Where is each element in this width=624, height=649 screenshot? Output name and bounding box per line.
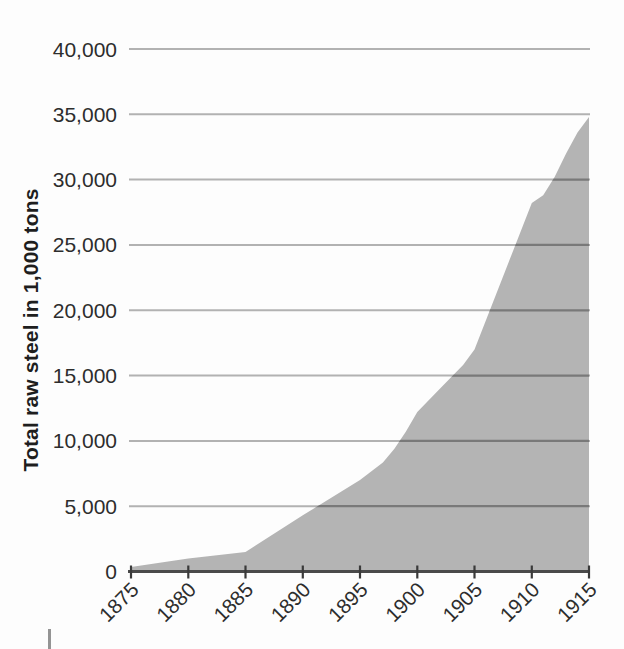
y-tick-label: 5,000 [64, 495, 117, 518]
y-tick-label: 40,000 [53, 38, 117, 61]
x-tick-label: 1910 [495, 578, 544, 627]
x-tick-label: 1880 [152, 578, 201, 627]
area-series [131, 117, 589, 572]
x-tick-label: 1885 [209, 578, 258, 627]
y-tick-label: 10,000 [53, 429, 117, 452]
y-tick-label: 15,000 [53, 364, 117, 387]
area-chart-plot: 05,00010,00015,00020,00025,00030,00035,0… [0, 0, 624, 649]
y-tick-label: 20,000 [53, 299, 117, 322]
x-tick-label: 1915 [552, 578, 601, 627]
x-tick-label: 1905 [438, 578, 487, 627]
y-tick-label: 25,000 [53, 233, 117, 256]
x-tick-label: 1900 [381, 578, 430, 627]
x-tick-label: 1875 [94, 578, 143, 627]
y-tick-label: 35,000 [53, 103, 117, 126]
page-edge-mark [48, 629, 51, 649]
y-tick-label: 30,000 [53, 168, 117, 191]
steel-production-chart-page: Total raw steel in 1,000 tons 05,00010,0… [0, 0, 624, 649]
x-tick-label: 1890 [266, 578, 315, 627]
y-tick-label: 0 [105, 560, 117, 583]
x-tick-label: 1895 [323, 578, 372, 627]
